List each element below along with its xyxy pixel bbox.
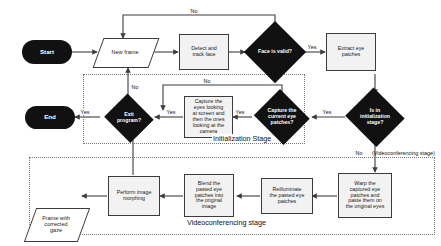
node-perform-image-morphing[interactable]: Perform image morphing xyxy=(108,176,160,216)
edge-label-init-stage-no: No xyxy=(355,150,363,156)
node-warp-captured-patches[interactable]: Warp the captured eye patches and paste … xyxy=(338,173,392,218)
node-reilluminate-patches-label: Reilluminate the pasted eye patches xyxy=(270,187,305,205)
initialization-stage-title: Initialization Stage xyxy=(212,134,272,143)
node-extract-eye-patches-label: Extract eye patches xyxy=(338,46,365,58)
node-start[interactable]: Start xyxy=(22,40,72,64)
node-capture-eyes-looking[interactable]: Capture the eyes looking at screen and t… xyxy=(184,96,233,138)
node-perform-image-morphing-label: Perform image morphing xyxy=(117,190,152,202)
node-frame-corrected-gaze[interactable]: Frame with corrected gaze xyxy=(30,208,82,240)
node-detect-track-face[interactable]: Detect and track face xyxy=(179,34,229,70)
node-new-frame[interactable]: New frame xyxy=(98,38,152,66)
node-is-in-initialization-stage[interactable]: Is in initialization stage? xyxy=(344,89,406,145)
flowchart-canvas: Start New frame Detect and track face Fa… xyxy=(0,0,441,246)
node-capture-eyes-looking-label: Capture the eyes looking at screen and t… xyxy=(192,99,224,135)
node-end[interactable]: End xyxy=(25,106,75,129)
node-start-label: Start xyxy=(40,49,54,56)
node-blend-patches[interactable]: Blend the pasted eye patches into the or… xyxy=(184,174,234,217)
edge-label-face-valid-yes: Yes xyxy=(307,44,317,50)
videoconferencing-stage-title: Videoconferencing stage xyxy=(186,218,267,227)
node-new-frame-label: New frame xyxy=(111,49,138,55)
videoconferencing-stage-note: (Videoconferencing stage) xyxy=(372,150,435,156)
node-face-is-valid-label: Face is valid? xyxy=(258,49,292,55)
edge-label-exit-yes: Yes xyxy=(80,109,90,115)
node-warp-captured-patches-label: Warp the captured eye patches and paste … xyxy=(346,181,385,211)
edge-label-exit-no: No xyxy=(131,84,139,90)
edge-label-init-stage-yes: Yes xyxy=(322,109,332,115)
node-blend-patches-label: Blend the pasted eye patches into the or… xyxy=(195,181,224,211)
node-frame-corrected-gaze-label: Frame with corrected gaze xyxy=(42,215,70,234)
node-detect-track-face-label: Detect and track face xyxy=(191,46,217,58)
node-reilluminate-patches[interactable]: Reilluminate the pasted eye patches xyxy=(261,178,313,214)
node-face-is-valid[interactable]: Face is valid? xyxy=(244,21,306,83)
node-exit-program[interactable]: Exit program? xyxy=(103,95,155,141)
edge-label-capture-patches-no: No xyxy=(203,78,211,84)
node-is-in-initialization-stage-label: Is in initialization stage? xyxy=(360,108,390,125)
node-end-label: End xyxy=(44,114,56,121)
node-extract-eye-patches[interactable]: Extract eye patches xyxy=(326,33,376,71)
node-exit-program-label: Exit program? xyxy=(117,112,141,124)
edge-label-face-invalid-no: No xyxy=(190,8,198,14)
edge-label-capture-done-yes: Yes xyxy=(166,109,176,115)
node-capture-current-eye-patches-label: Capture the current eye patches? xyxy=(268,108,297,125)
edge-label-capture-patches-yes: Yes xyxy=(235,109,245,115)
